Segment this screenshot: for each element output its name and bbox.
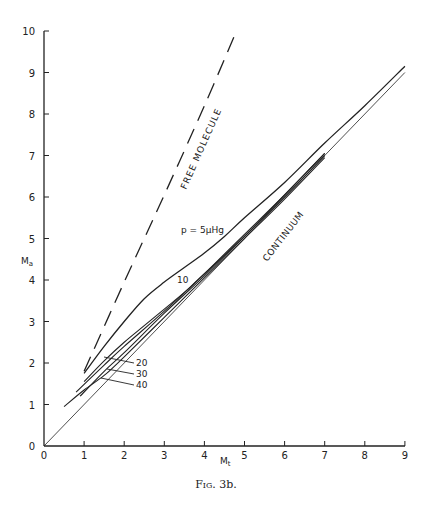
y-tick-label: 7: [29, 151, 35, 162]
series-line: [64, 158, 325, 407]
x-tick-label: 7: [322, 450, 328, 461]
x-tick-label: 0: [41, 450, 47, 461]
p5-label: p = 5μHg: [181, 225, 224, 235]
ticks: [44, 31, 405, 446]
x-tick-label: 2: [121, 450, 127, 461]
y-tick-label: 1: [29, 400, 35, 411]
y-tick-label: 3: [29, 317, 35, 328]
x-tick-label: 8: [362, 450, 368, 461]
free-molecule-label: FREE MOLECULE: [179, 107, 224, 191]
y-tick-label: 2: [29, 358, 35, 369]
x-tick-label: 9: [402, 450, 408, 461]
series-line: [84, 153, 325, 381]
axes: [44, 31, 405, 446]
p40-label: 40: [136, 380, 148, 390]
series-line: [84, 31, 236, 371]
caption-number: 3b.: [219, 478, 237, 491]
y-tick-label: 9: [29, 68, 35, 79]
x-tick-label: 1: [81, 450, 87, 461]
x-axis-title: Mt: [220, 456, 231, 468]
caption-prefix: Fig.: [195, 478, 216, 491]
x-tick-label: 3: [161, 450, 167, 461]
p30-label: 30: [136, 369, 148, 379]
y-tick-label: 0: [29, 441, 35, 452]
series-line: [84, 66, 405, 373]
series-line: [76, 153, 325, 392]
figure-caption: Fig. 3b.: [0, 478, 432, 491]
chart: 0123456789012345678910 FREE MOLECULE CON…: [0, 0, 432, 511]
x-tick-label: 5: [241, 450, 247, 461]
x-tick-label: 6: [281, 450, 287, 461]
y-tick-label: 8: [29, 109, 35, 120]
y-tick-label: 5: [29, 234, 35, 245]
series-line: [44, 73, 405, 447]
y-tick-label: 4: [29, 275, 35, 286]
p20-label: 20: [136, 358, 148, 368]
p10-label: 10: [177, 275, 189, 285]
data-series: [44, 31, 405, 446]
y-tick-label: 10: [22, 26, 35, 37]
x-tick-label: 4: [201, 450, 207, 461]
y-axis-title: Ma: [21, 256, 33, 268]
y-tick-label: 6: [29, 192, 35, 203]
continuum-label: CONTINUUM: [261, 209, 306, 263]
leader-lines: [101, 357, 134, 385]
